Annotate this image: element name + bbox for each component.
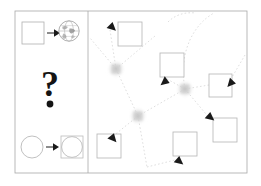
graph-node-square xyxy=(213,118,237,142)
graph-edge xyxy=(147,159,179,167)
graph-edge xyxy=(168,13,196,22)
graph-node-square xyxy=(118,22,142,46)
graph-hub-blur-node xyxy=(176,80,195,99)
graph-node-square xyxy=(160,53,184,77)
legend-row-square-to-globe xyxy=(22,21,79,44)
graph-arrowhead xyxy=(107,21,119,32)
legend-row-question: ? xyxy=(41,64,59,107)
graph-hub-blur-node xyxy=(129,107,148,126)
empty-square-glyph xyxy=(22,22,44,44)
question-dot-glyph xyxy=(47,101,54,108)
figure-canvas: ? xyxy=(0,0,261,186)
question-mark-glyph: ? xyxy=(41,64,59,104)
graph-arrowhead xyxy=(174,155,186,165)
legend-row-circle-to-boxed-circle xyxy=(21,136,83,158)
globe-icon xyxy=(59,21,79,41)
network-graph-panel xyxy=(90,13,245,167)
legend-panel: ? xyxy=(21,21,83,158)
graph-hub-blur-node xyxy=(107,60,126,79)
empty-circle-glyph xyxy=(21,136,43,158)
graph-arrowhead xyxy=(160,76,171,88)
right-arrow-icon xyxy=(47,29,60,37)
right-arrow-icon xyxy=(46,143,59,151)
graph-square-nodes xyxy=(97,22,237,158)
figure-root: ? xyxy=(0,0,261,186)
boxed-circle-glyph xyxy=(61,136,83,158)
graph-node-square xyxy=(173,132,197,156)
